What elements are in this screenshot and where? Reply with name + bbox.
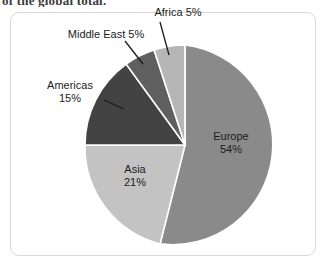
pie-label-middle-east-text: Middle East 5%: [54, 28, 158, 41]
pie-label-europe-value: 54%: [203, 143, 259, 156]
pie-label-americas-value: 15%: [34, 92, 106, 105]
pie-label-americas: Americas 15%: [34, 79, 106, 104]
pie-label-africa: Africa 5%: [140, 6, 216, 19]
pie-label-asia-name: Asia: [113, 163, 157, 176]
pie-label-middle-east: Middle East 5%: [54, 28, 158, 41]
pie-label-asia-value: 21%: [113, 176, 157, 189]
pie-chart: Africa 5% Middle East 5% Americas 15% Eu…: [0, 0, 330, 268]
pie-label-asia: Asia 21%: [113, 163, 157, 188]
pie-label-europe-name: Europe: [203, 130, 259, 143]
pie-chart-svg: [0, 0, 330, 268]
page-root: of the global total. Africa 5% Middle Ea…: [0, 0, 330, 268]
pie-label-europe: Europe 54%: [203, 130, 259, 155]
pie-label-africa-text: Africa 5%: [140, 6, 216, 19]
pie-label-americas-name: Americas: [34, 79, 106, 92]
